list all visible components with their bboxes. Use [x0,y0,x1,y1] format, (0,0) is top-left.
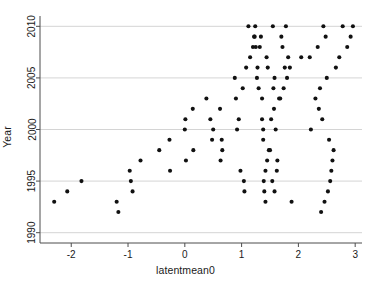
data-point [263,200,267,204]
x-tick-label: -2 [67,249,76,260]
data-point [286,55,290,59]
y-tick-label: 1990 [27,221,38,244]
y-tick-group: 19901995200020052010 [27,15,41,244]
data-point [341,24,345,28]
data-point [65,189,69,193]
data-point [271,86,275,90]
x-tick-label: -1 [124,249,133,260]
data-point [255,76,259,80]
data-point [183,117,187,121]
data-point [270,179,274,183]
y-tick-label: 2000 [27,118,38,141]
data-point [327,138,331,142]
data-point [321,24,325,28]
data-point [316,45,320,49]
data-point [257,86,261,90]
x-tick-label: 1 [239,249,245,260]
data-point [255,66,259,70]
data-point [284,24,288,28]
scatter-plot-figure: 19901995200020052010 -2-10123 latentmean… [0,0,371,288]
data-point [219,158,223,162]
data-point [332,148,336,152]
data-point [272,189,276,193]
data-point [329,169,333,173]
data-point [283,66,287,70]
data-point [183,127,187,131]
data-point [246,24,250,28]
data-point [265,158,269,162]
data-point [334,66,338,70]
data-point [220,148,224,152]
data-point [279,35,283,39]
data-point [242,179,246,183]
data-point [241,86,245,90]
data-point [261,127,265,131]
data-point [322,200,326,204]
data-point [319,210,323,214]
data-point [244,66,248,70]
data-point [318,86,322,90]
data-point [278,97,282,101]
data-point [260,97,264,101]
data-point [218,107,222,111]
data-point [259,35,263,39]
data-point [242,189,246,193]
data-point [269,117,273,121]
data-point [129,179,133,183]
data-point [52,200,56,204]
data-point [258,45,262,49]
data-point [268,148,272,152]
data-point [167,138,171,142]
y-tick-label: 1995 [27,170,38,193]
data-point [211,127,215,131]
data-point [235,127,239,131]
data-point [262,179,266,183]
data-point [248,55,252,59]
data-point [326,189,330,193]
data-point [262,189,266,193]
data-point [272,76,276,80]
data-point [275,158,279,162]
data-point [271,24,275,28]
data-point [253,24,257,28]
data-point [325,76,329,80]
data-point [324,35,328,39]
data-point [254,45,258,49]
x-tick-label: 2 [296,249,302,260]
data-point [191,107,195,111]
data-point [234,97,238,101]
data-point [204,97,208,101]
data-point [320,117,324,121]
data-point [138,158,142,162]
data-point [116,210,120,214]
data-point [280,45,284,49]
data-point [299,55,303,59]
data-point [233,76,237,80]
data-point [313,97,317,101]
x-axis-title: latentmean0 [0,264,371,276]
data-point [253,35,257,39]
data-point [168,169,172,173]
data-point [328,179,332,183]
data-point [274,127,278,131]
data-point-group [52,24,355,214]
data-point [290,200,294,204]
y-tick-label: 2010 [27,15,38,38]
data-point [285,76,289,80]
y-tick-label: 2005 [27,66,38,89]
data-point [308,55,312,59]
x-tick-label: 3 [352,249,358,260]
data-point [349,35,353,39]
x-tick-group: -2-10123 [67,243,359,260]
data-point [309,127,313,131]
data-point [237,117,241,121]
x-tick-label: 0 [182,249,188,260]
data-point [131,189,135,193]
data-point [115,200,119,204]
data-point [261,138,265,142]
plot-canvas: 19901995200020052010 -2-10123 [0,0,371,288]
data-point [351,24,355,28]
data-point [337,55,341,59]
data-point [238,169,242,173]
data-point [266,66,270,70]
